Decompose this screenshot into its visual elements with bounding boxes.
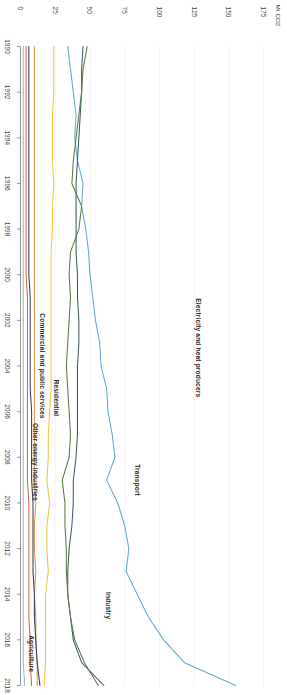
series-lines	[23, 46, 236, 685]
x-tick-label: 2008	[3, 449, 10, 464]
chart-screenshot: Mt CO2 0255075100125150175 1990199219941…	[0, 0, 287, 695]
plot-area: Mt CO2 0255075100125150175 1990199219941…	[0, 0, 287, 695]
series-label-6: Agriculture	[28, 635, 35, 672]
y-tick-label: 150	[225, 6, 232, 17]
rotated-chart-canvas: Mt CO2 0255075100125150175 1990199219941…	[0, 0, 287, 695]
series-label-3: Residential	[53, 379, 60, 416]
x-tick-label: 2018	[3, 678, 10, 693]
x-tick-label: 2002	[3, 313, 10, 328]
y-tick-label: 75	[121, 6, 128, 13]
x-tick-label: 1998	[3, 221, 10, 236]
series-line-7	[23, 46, 24, 685]
x-tick-label: 2016	[3, 632, 10, 647]
series-line-2	[62, 46, 98, 685]
x-tick-label: 2010	[3, 495, 10, 510]
series-line-0	[67, 46, 235, 685]
x-tick-label: 1996	[3, 176, 10, 191]
x-tick-label: 1992	[3, 84, 10, 99]
axis	[17, 46, 21, 685]
x-tick-label: 2014	[3, 586, 10, 601]
y-tick-label: 25	[51, 6, 58, 13]
y-tick-label: 175	[260, 6, 267, 17]
y-tick-label: 50	[86, 6, 93, 13]
x-tick-label: 1994	[3, 130, 10, 145]
series-line-1	[67, 46, 103, 685]
y-tick-label: 100	[155, 6, 162, 17]
series-label-0: Electricity and heat producers	[194, 298, 201, 397]
x-tick-label: 2004	[3, 358, 10, 373]
series-label-5: Other energy industries	[32, 422, 39, 500]
x-tick-label: 2000	[3, 267, 10, 282]
x-tick-label: 1990	[3, 39, 10, 54]
y-tick-label: 125	[190, 6, 197, 17]
gridlines	[20, 46, 263, 685]
y-tick-label: 0	[17, 6, 24, 10]
series-label-4: Commercial and public services	[39, 313, 46, 418]
series-label-1: Transport	[133, 464, 140, 496]
x-tick-label: 2012	[3, 541, 10, 556]
x-tick-label: 2006	[3, 404, 10, 419]
series-label-2: Industry	[104, 592, 111, 619]
